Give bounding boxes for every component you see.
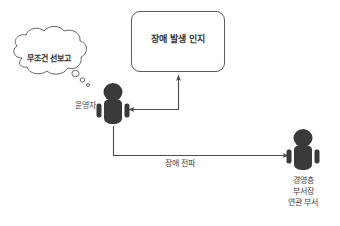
- management-label-line-1: 경영층: [272, 175, 334, 186]
- management-label-line-3: 연관 부서: [272, 197, 334, 208]
- thought-bubble-label: 무조건 선보고: [20, 54, 78, 64]
- management-label-line-2: 부서장: [272, 186, 334, 197]
- operator-label: 운영자: [52, 101, 96, 111]
- flow-label-propagation: 장애 전파: [142, 159, 218, 169]
- management-label: 경영층 부서장 연관 부서: [272, 175, 334, 208]
- diagram-canvas: 장애 발생 인지 무조건 선보고 운영자 장애 전파 경영층 부서장 연관 부서: [0, 0, 340, 226]
- process-box-label: 장애 발생 인지: [131, 34, 225, 45]
